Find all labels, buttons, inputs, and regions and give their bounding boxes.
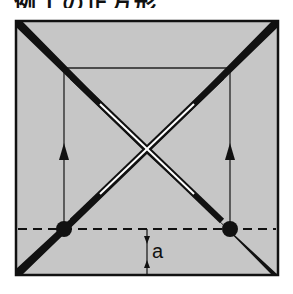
left-point [56,221,72,237]
right-point [222,221,238,237]
square-diagram [0,0,293,294]
dimension-label: a [152,240,163,263]
